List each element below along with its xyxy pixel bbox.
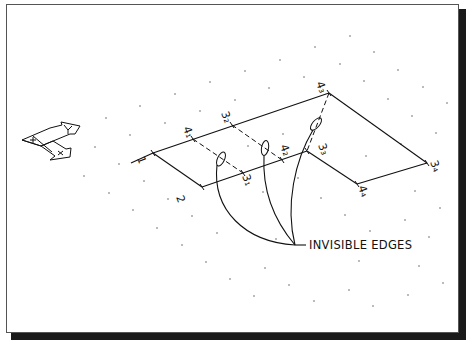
invisible-edges-label: INVISIBLE EDGES bbox=[309, 238, 412, 252]
callout-leaders bbox=[217, 130, 313, 245]
label-4-3: 4₃ bbox=[313, 80, 329, 95]
drawing-canvas: 1 2 4₁ 3₂ 4₃ 3₁ 4₂ 3₃ 3₄ 4₄ INVISIBLE ED… bbox=[0, 0, 469, 343]
ucs-icon bbox=[22, 122, 80, 160]
label-3-1: 3₁ bbox=[239, 173, 255, 188]
label-3-4: 3₄ bbox=[427, 159, 443, 175]
solid-edges bbox=[131, 93, 427, 187]
label-3-3: 3₃ bbox=[315, 142, 331, 157]
label-4-4: 4₄ bbox=[355, 184, 371, 200]
hidden-edges bbox=[193, 93, 329, 173]
label-4-2: 4₂ bbox=[277, 143, 293, 158]
label-4-1: 4₁ bbox=[180, 125, 196, 140]
label-2: 2 bbox=[173, 194, 188, 205]
label-3-2: 3₂ bbox=[218, 110, 234, 125]
grid-dots bbox=[83, 35, 447, 306]
label-1: 1 bbox=[134, 155, 149, 166]
